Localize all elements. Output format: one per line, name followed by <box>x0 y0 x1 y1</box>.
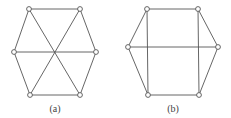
edge <box>14 9 29 52</box>
graph-a <box>12 7 99 98</box>
caption-b: (b) <box>167 103 179 114</box>
node <box>28 93 33 98</box>
edge <box>80 52 96 95</box>
caption-a: (a) <box>49 103 60 114</box>
edge <box>199 47 218 95</box>
graph-figure <box>0 0 231 118</box>
edge <box>147 9 148 95</box>
node <box>27 7 32 12</box>
node <box>146 93 151 98</box>
edge <box>14 52 30 95</box>
edge <box>128 47 148 95</box>
edge <box>198 9 218 47</box>
node <box>126 45 131 50</box>
node <box>12 50 17 55</box>
node <box>196 7 201 12</box>
node <box>197 93 202 98</box>
edge <box>198 9 199 95</box>
node <box>216 45 221 50</box>
node <box>94 50 99 55</box>
node <box>78 7 83 12</box>
edge <box>80 9 96 52</box>
node <box>145 7 150 12</box>
graph-b <box>126 7 221 98</box>
node <box>78 93 83 98</box>
edge <box>128 9 147 47</box>
